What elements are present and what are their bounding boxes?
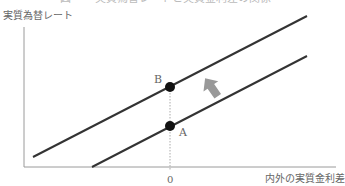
shift-arrow-icon [198,73,225,101]
point-b [165,82,175,92]
lower-line [92,56,307,167]
point-b-label: B [154,74,162,86]
point-a-label: A [179,127,187,139]
x-axis-label: 内外の実質金利差 [265,173,345,185]
y-axis-label: 実質為替レート [3,10,73,22]
zero-tick-label: 0 [167,174,173,186]
point-a [165,121,175,131]
